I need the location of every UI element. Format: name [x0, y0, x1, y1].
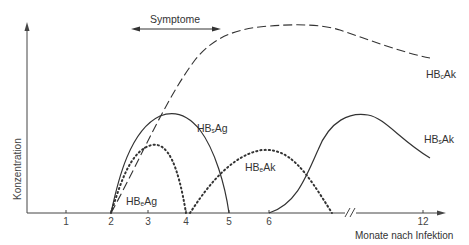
axes [25, 22, 447, 217]
tick-label-5: 5 [226, 217, 232, 227]
label-hbs-ag: HBsAg [197, 123, 228, 135]
x-axis-title: Monate nach Infektion [355, 231, 453, 241]
y-axis-arrow-icon [25, 22, 30, 31]
label-hbs-ak: HBsAk [424, 134, 454, 146]
tick-label-6: 6 [266, 217, 272, 227]
curve-hbs-ak [269, 114, 430, 213]
tick-label-12: 12 [417, 217, 428, 227]
axis-break-mark-1 [345, 208, 350, 217]
tick-label-3: 3 [145, 217, 151, 227]
tick-label-4: 4 [183, 217, 189, 227]
y-axis-title: Konzentration [12, 138, 23, 200]
curve-hbc-ak [111, 25, 430, 213]
label-hbc-ak: HBcAk [426, 69, 456, 81]
label-hbe-ag: HBeAg [126, 196, 157, 208]
symptome-arrow [131, 27, 221, 32]
axis-break-mark-2 [350, 208, 355, 217]
curve-hbe-ak [190, 150, 332, 213]
symptome-label: Symptome [150, 14, 200, 25]
x-axis-arrow-icon [437, 211, 446, 216]
label-hbe-ak: HBeAk [245, 162, 275, 174]
hepatitis-b-serology-chart [0, 0, 469, 245]
tick-label-2: 2 [108, 217, 114, 227]
tick-label-1: 1 [63, 217, 69, 227]
